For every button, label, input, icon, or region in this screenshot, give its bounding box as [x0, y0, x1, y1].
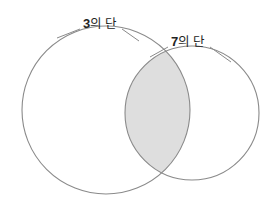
- set-label-right-number: 7: [171, 34, 178, 49]
- intersection-region: [125, 46, 259, 180]
- set-label-right: 7의 단: [171, 35, 205, 49]
- leader-line-right-right: [210, 47, 231, 62]
- set-label-left-number: 3: [83, 16, 90, 31]
- leader-line-left: [57, 29, 80, 38]
- set-label-right-unit: 의 단: [178, 35, 205, 49]
- set-label-left-unit: 의 단: [90, 17, 117, 31]
- set-label-left: 3의 단: [83, 17, 117, 31]
- venn-diagram: 3의 단 7의 단: [0, 0, 274, 205]
- venn-diagram-canvas: [0, 0, 274, 205]
- leader-line-left-right: [122, 29, 139, 41]
